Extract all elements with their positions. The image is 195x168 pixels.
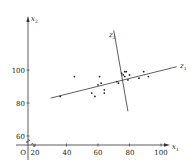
y-tick-label: 60: [16, 133, 25, 141]
data-point: [125, 71, 127, 73]
x-tick-label: 60: [94, 149, 103, 157]
x-tick-label: 20: [31, 149, 40, 157]
z2-axis-line: [114, 30, 128, 111]
data-point: [143, 71, 145, 73]
y-tick-label: 80: [16, 100, 25, 108]
principal-axes: z1 z2: [51, 30, 187, 111]
z1-axis-line: [51, 67, 177, 98]
x-tick-label: 100: [154, 149, 167, 157]
tick-labels: 20 40 60 80 100 60 80 100 O: [12, 67, 168, 158]
data-point: [127, 79, 129, 81]
data-point: [118, 82, 120, 84]
y-axis-title: x2: [31, 15, 38, 24]
x-tick-label: 80: [126, 149, 135, 157]
data-point: [148, 76, 150, 78]
axis-titles: x2 x1: [31, 15, 179, 152]
data-points: [59, 71, 149, 98]
data-point: [103, 92, 105, 94]
data-point: [99, 76, 101, 78]
data-point: [129, 74, 131, 76]
x-axis-title: x1: [172, 143, 179, 152]
data-point: [122, 74, 124, 76]
origin-label: O: [20, 149, 26, 157]
data-point: [94, 96, 96, 98]
data-point: [138, 77, 140, 79]
y-axis-arrow-icon: [26, 16, 29, 22]
data-point: [59, 96, 61, 98]
data-point: [103, 89, 105, 91]
data-point: [73, 76, 75, 78]
z1-axis-label: z1: [179, 62, 187, 71]
axes: [16, 16, 170, 160]
data-point: [124, 71, 126, 73]
x-axis-arrow-icon: [164, 143, 170, 146]
data-point: [97, 84, 99, 86]
data-point: [124, 76, 126, 78]
data-point: [116, 81, 118, 83]
tick-marks: [27, 70, 162, 147]
z2-axis-label: z2: [108, 31, 116, 40]
data-point: [100, 82, 102, 84]
scatter-chart: 20 40 60 80 100 60 80 100 O x2 x1 z1 z2: [0, 0, 195, 168]
data-point: [121, 72, 123, 74]
x-tick-label: 40: [63, 149, 72, 157]
y-tick-label: 100: [12, 67, 25, 75]
data-point: [91, 92, 93, 94]
